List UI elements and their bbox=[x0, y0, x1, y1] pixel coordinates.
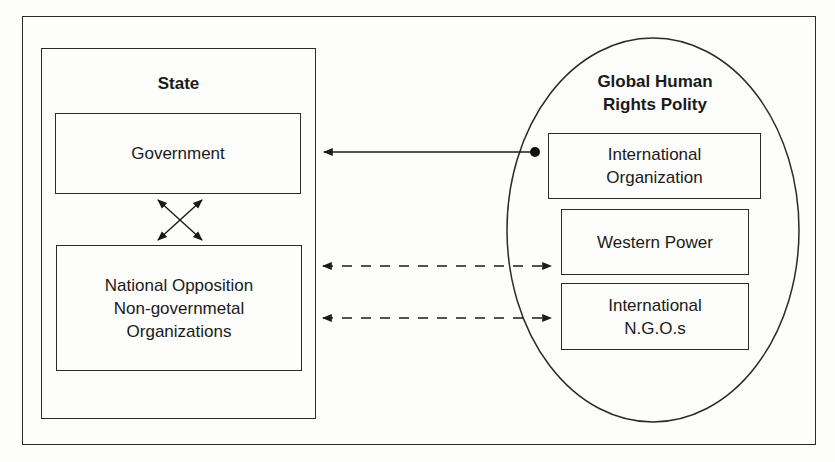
global-polity-ellipse bbox=[507, 38, 799, 422]
connector-layer bbox=[0, 0, 835, 462]
connector-dot-icon bbox=[530, 147, 540, 157]
io-to-government-arrow bbox=[324, 147, 540, 157]
cross-arrows-icon bbox=[158, 200, 202, 240]
